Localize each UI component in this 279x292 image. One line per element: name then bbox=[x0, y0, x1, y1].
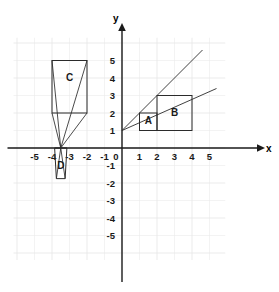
y-tick-3: 3 bbox=[110, 90, 115, 101]
y-axis-arrowhead bbox=[118, 23, 126, 31]
y-tick--2: -2 bbox=[107, 178, 115, 189]
shape-label-a: A bbox=[145, 115, 152, 126]
x-axis-label: x bbox=[266, 143, 272, 154]
x-tick--2: -2 bbox=[83, 151, 91, 162]
x-axis-arrowhead bbox=[257, 144, 265, 152]
x-tick-1: 1 bbox=[137, 151, 143, 162]
y-tick-1: 1 bbox=[110, 125, 116, 136]
y-axis-label: y bbox=[113, 13, 119, 24]
x-tick--5: -5 bbox=[30, 151, 39, 162]
y-tick--1: -1 bbox=[107, 160, 116, 171]
x-tick-4: 4 bbox=[189, 151, 195, 162]
y-tick-2: 2 bbox=[110, 108, 115, 119]
coordinate-plane-svg: xy-5-4-3-2-1012345-5-4-3-2-112345ABCD bbox=[0, 0, 279, 292]
plot-panel bbox=[14, 38, 226, 260]
coordinate-plane-figure: xy-5-4-3-2-1012345-5-4-3-2-112345ABCD bbox=[0, 0, 279, 292]
y-tick-5: 5 bbox=[110, 55, 116, 66]
x-tick-3: 3 bbox=[172, 151, 177, 162]
y-tick-4: 4 bbox=[110, 73, 116, 84]
x-tick-2: 2 bbox=[154, 151, 159, 162]
y-tick--5: -5 bbox=[107, 230, 116, 241]
shape-label-b: B bbox=[171, 107, 178, 118]
shape-label-d: D bbox=[57, 160, 64, 171]
y-tick--3: -3 bbox=[107, 195, 115, 206]
shape-label-c: C bbox=[66, 72, 73, 83]
x-tick-5: 5 bbox=[207, 151, 213, 162]
y-tick--4: -4 bbox=[107, 213, 116, 224]
